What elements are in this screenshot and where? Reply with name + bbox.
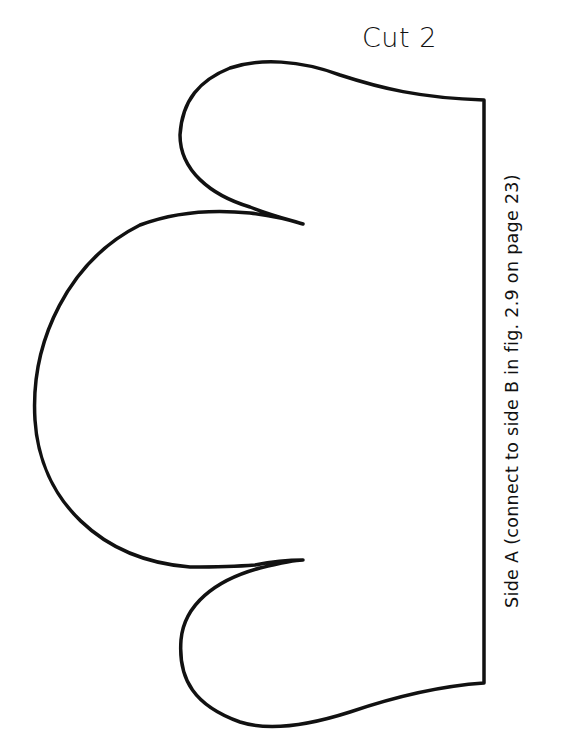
cut-quantity-label: Cut 2	[362, 22, 437, 53]
pattern-outline-path	[35, 62, 484, 727]
side-connection-label: Side A (connect to side B in fig. 2.9 on…	[502, 174, 522, 608]
pattern-piece-outline	[0, 0, 563, 748]
